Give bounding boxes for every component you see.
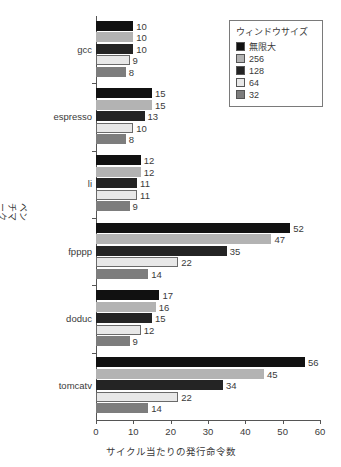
bar-value-label: 47: [271, 234, 285, 245]
bar-value-label: 35: [227, 245, 241, 256]
legend-item: 32: [236, 89, 317, 100]
legend-item: 64: [236, 77, 317, 88]
x-axis-tick-label: 60: [315, 426, 326, 437]
bar: [96, 325, 141, 335]
legend-item-label: 256: [249, 54, 264, 64]
bar: [96, 380, 223, 390]
x-axis-tick-label: 20: [165, 426, 176, 437]
bar: [96, 357, 305, 367]
bar-value-label: 22: [178, 257, 192, 268]
x-axis-tick: [171, 420, 172, 424]
bar-row: 34: [96, 380, 320, 390]
bar: [96, 55, 130, 65]
bar-row: 14: [96, 403, 320, 413]
bar: [96, 223, 290, 233]
bar: [96, 234, 271, 244]
bar-value-label: 56: [305, 357, 319, 368]
x-axis-tick-label: 10: [128, 426, 139, 437]
y-axis-label: gcc: [6, 43, 92, 54]
x-axis-tick-label: 50: [277, 426, 288, 437]
bar-row: 17: [96, 290, 320, 300]
legend-item-label: 32: [249, 90, 259, 100]
bar-row: 35: [96, 246, 320, 256]
bar-row: 9: [96, 201, 320, 211]
bar: [96, 100, 152, 110]
bar-row: 11: [96, 190, 320, 200]
bar-value-label: 10: [133, 32, 147, 43]
bar-row: 16: [96, 302, 320, 312]
x-axis-tick-label: 30: [203, 426, 214, 437]
bar-value-label: 13: [145, 111, 159, 122]
legend-swatch: [236, 66, 245, 75]
bar-row: 22: [96, 392, 320, 402]
x-axis-title: サイクル当たりの発行命令数: [0, 444, 341, 458]
bar: [96, 392, 178, 402]
bar-value-label: 12: [141, 155, 155, 166]
bar: [96, 336, 130, 346]
bar-row: 10: [96, 123, 320, 133]
bar-value-label: 45: [264, 368, 278, 379]
bar-row: 56: [96, 357, 320, 367]
legend-item-label: 無限大: [249, 40, 276, 53]
bar-value-label: 11: [137, 189, 150, 200]
bar: [96, 155, 141, 165]
bar-value-label: 10: [133, 20, 147, 31]
bar-row: 8: [96, 134, 320, 144]
y-axis-label: fpppp: [6, 245, 92, 256]
bar: [96, 302, 156, 312]
bar-row: 13: [96, 111, 320, 121]
y-axis-labels: gccespressolifppppdoductomcatv: [0, 0, 92, 467]
bar-row: 14: [96, 269, 320, 279]
bar: [96, 88, 152, 98]
bar: [96, 369, 264, 379]
bar: [96, 178, 137, 188]
bar: [96, 290, 159, 300]
bar: [96, 257, 178, 267]
x-axis-tick: [320, 420, 321, 424]
y-axis-label: doduc: [6, 313, 92, 324]
bar-row: 11: [96, 178, 320, 188]
bar-row: 12: [96, 325, 320, 335]
legend-swatch: [236, 78, 245, 87]
bar-value-label: 22: [178, 391, 192, 402]
bar: [96, 67, 126, 77]
y-axis-label: li: [6, 178, 92, 189]
x-axis-tick: [283, 420, 284, 424]
y-axis-tick: [92, 151, 97, 152]
bar: [96, 123, 133, 133]
legend-swatch: [236, 90, 245, 99]
bar: [96, 313, 152, 323]
bar: [96, 21, 133, 31]
bar-value-label: 34: [223, 380, 237, 391]
x-axis-tick-label: 40: [240, 426, 251, 437]
x-axis-tick: [96, 420, 97, 424]
bar-row: 12: [96, 155, 320, 165]
bar-value-label: 17: [159, 290, 173, 301]
legend-item: 256: [236, 53, 317, 64]
bar-value-label: 15: [152, 313, 166, 324]
legend-swatch: [236, 42, 245, 51]
bar-value-label: 14: [148, 403, 162, 414]
bar-value-label: 9: [130, 336, 138, 347]
bar: [96, 201, 130, 211]
legend-item: 無限大: [236, 41, 317, 52]
y-axis-tick: [92, 285, 97, 286]
bar-row: 9: [96, 336, 320, 346]
legend-item-label: 64: [249, 78, 259, 88]
bar: [96, 190, 137, 200]
bar-value-label: 12: [141, 166, 155, 177]
bar: [96, 269, 148, 279]
bar-value-label: 15: [152, 99, 166, 110]
bar-value-label: 52: [290, 222, 304, 233]
legend-swatch: [236, 54, 245, 63]
bar: [96, 32, 133, 42]
legend: ウィンドウサイズ 無限大2561286432: [229, 20, 323, 107]
bar-row: 12: [96, 167, 320, 177]
bar-value-label: 12: [141, 324, 155, 335]
legend-items: 無限大2561286432: [236, 41, 317, 100]
bar-chart: ベンチマーク gccespressolifppppdoductomcatv 10…: [0, 0, 341, 467]
bar-row: 22: [96, 257, 320, 267]
y-axis-tick: [92, 218, 97, 219]
y-axis-tick: [92, 83, 97, 84]
legend-item-label: 128: [249, 66, 264, 76]
